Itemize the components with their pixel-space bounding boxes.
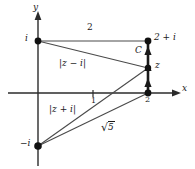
segment-sqrt5-label: √5 [101,122,115,133]
segment-i-to-z [38,41,148,68]
point-z-label: z [155,61,160,70]
x-tick-one-label: 1 [91,97,96,105]
segment-z-minus-i-label: |z − i| [59,59,86,68]
radical-sign-icon: √ [101,121,108,134]
contour-C-label: C [135,46,142,55]
radicand-value: 5 [108,121,115,132]
x-axis-label: x [182,84,187,93]
point-minus-i-dot [34,142,42,150]
contour-arrow-3 [144,46,151,55]
y-axis-label: y [33,3,38,12]
point-2-plus-i-dot [145,38,152,45]
point-minus-i-label: −i [20,139,30,148]
point-2-plus-i-label: 2 + i [154,33,176,42]
point-z-dot [145,65,151,71]
point-2-label: 2 [145,96,150,104]
x-axis-arrowhead [172,90,181,97]
point-i-dot [35,38,42,45]
contour-arrow-1 [144,78,151,87]
segment-top-length-label: 2 [87,23,93,32]
y-axis-arrowhead [35,11,42,20]
point-i-label: i [25,34,28,43]
segment-z-plus-i-label: |z + i| [49,105,76,114]
figure-canvas: y x 1 i 2 + i z 2 −i 2 |z − i| |z + i| √… [0,0,195,169]
